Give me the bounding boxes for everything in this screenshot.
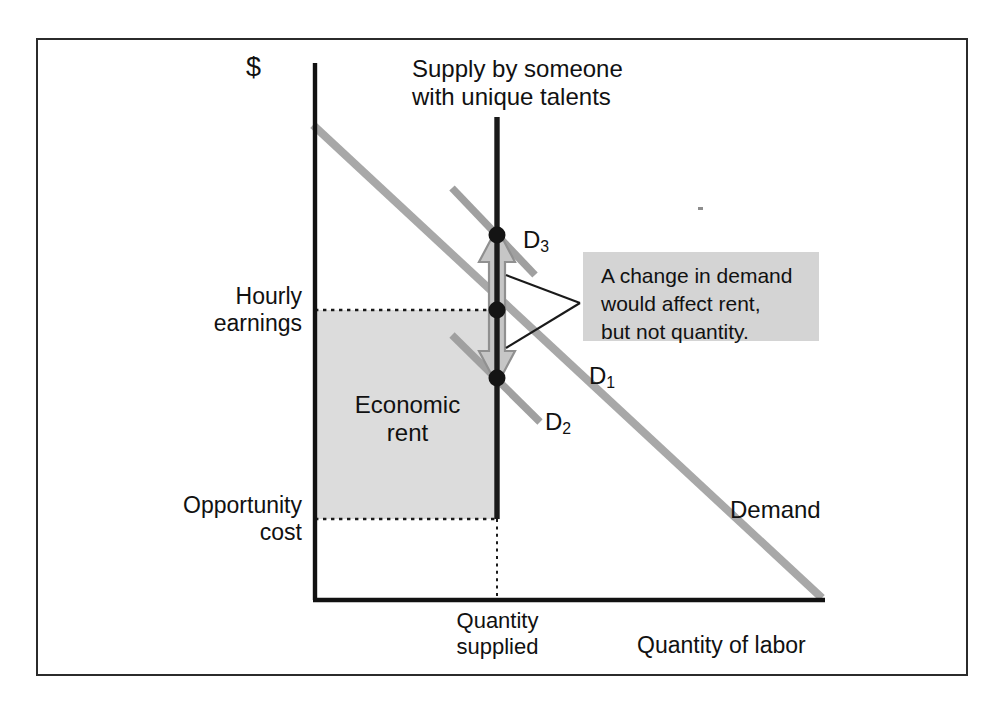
economic-rent-label: Economic rent — [325, 391, 490, 447]
demand-d2-letter: D — [545, 408, 562, 435]
demand-d3-letter: D — [523, 226, 540, 253]
y-axis-label: $ — [246, 52, 261, 84]
demand-d1-label: D1 — [589, 362, 615, 393]
demand-curve-label: Demand — [730, 496, 821, 524]
equilibrium-dot-d3 — [489, 227, 506, 244]
x-axis-label: Quantity of labor — [637, 632, 806, 659]
opportunity-cost-label: Opportunity cost — [110, 492, 302, 546]
equilibrium-dot-d1 — [489, 302, 506, 319]
demand-d3-subscript: 3 — [540, 238, 549, 255]
demand-d2-label: D2 — [545, 408, 571, 439]
hourly-earnings-label: Hourly earnings — [120, 283, 302, 337]
demand-d3-label: D3 — [523, 226, 549, 257]
quantity-supplied-label: Quantity supplied — [420, 608, 575, 659]
callout-text: A change in demand would affect rent, bu… — [601, 262, 816, 346]
print-speck — [698, 207, 703, 210]
demand-d1-letter: D — [589, 362, 606, 389]
demand-d1-subscript: 1 — [606, 374, 615, 391]
figure-page: A change in demand would affect rent, bu… — [0, 0, 994, 706]
supply-curve-label: Supply by someone with unique talents — [412, 55, 623, 111]
demand-d2-subscript: 2 — [562, 420, 571, 437]
equilibrium-dot-d2 — [489, 370, 506, 387]
